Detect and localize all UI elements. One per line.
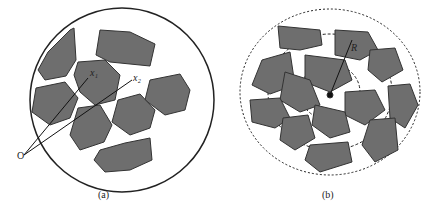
- vector-x2-label: x₂: [133, 72, 141, 83]
- caption-a: (a): [98, 189, 109, 200]
- panel-b: [240, 9, 420, 175]
- vector-x1-label: x₁: [90, 67, 98, 78]
- caption-b: (b): [322, 189, 334, 200]
- origin-label: O: [17, 150, 24, 161]
- radius-label: R: [351, 42, 357, 53]
- panel-a: [24, 8, 214, 192]
- diagram-canvas: [0, 0, 426, 212]
